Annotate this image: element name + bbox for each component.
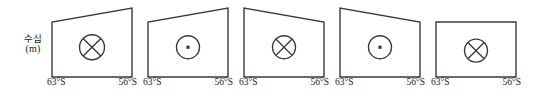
x-axis-ticks: 63°S56°S — [140, 77, 236, 93]
panel-1: 63°S56°S — [44, 0, 140, 100]
circle-dot-icon — [186, 46, 189, 49]
x-axis-ticks: 63°S56°S — [332, 77, 428, 93]
panel-2: 63°S56°S — [140, 0, 236, 100]
x-tick-right: 56°S — [118, 77, 137, 87]
x-tick-left: 63°S — [431, 77, 450, 87]
panel-outline — [436, 22, 516, 77]
circle-dot-icon — [378, 46, 381, 49]
panel-outline — [244, 8, 324, 77]
x-tick-left: 63°S — [47, 77, 66, 87]
panel-3: 63°S56°S — [236, 0, 332, 100]
x-axis-ticks: 63°S56°S — [428, 77, 524, 93]
panel-5: 63°S56°S — [428, 0, 524, 100]
center-dot — [378, 46, 381, 49]
panel-outline — [340, 8, 420, 77]
panel-outline — [52, 8, 132, 77]
x-tick-right: 56°S — [310, 77, 329, 87]
x-tick-right: 56°S — [502, 77, 521, 87]
x-tick-right: 56°S — [214, 77, 233, 87]
x-tick-left: 63°S — [239, 77, 258, 87]
figure-panel-series: 수심 (m) 63°S56°S 63°S56°S 63°S56°S 63°S56… — [0, 0, 536, 100]
circle-cross-icon — [83, 38, 101, 56]
circle-cross-icon — [276, 39, 292, 55]
x-tick-left: 63°S — [143, 77, 162, 87]
panel-4: 63°S56°S — [332, 0, 428, 100]
x-axis-ticks: 63°S56°S — [236, 77, 332, 93]
x-axis-ticks: 63°S56°S — [44, 77, 140, 93]
x-tick-right: 56°S — [406, 77, 425, 87]
center-dot — [186, 46, 189, 49]
x-tick-left: 63°S — [335, 77, 354, 87]
panel-outline — [148, 8, 228, 77]
circle-cross-icon — [468, 42, 484, 58]
